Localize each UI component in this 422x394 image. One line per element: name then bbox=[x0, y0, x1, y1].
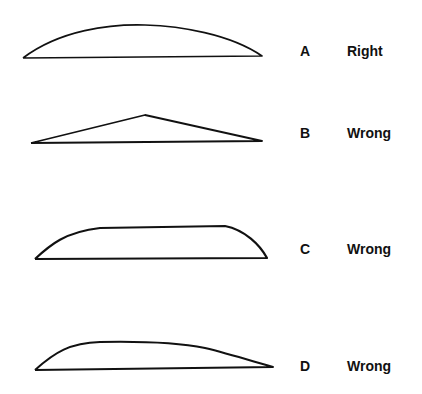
row-a-letter: A bbox=[300, 44, 310, 58]
row-d-verdict: Wrong bbox=[347, 359, 391, 373]
arc-diagram-canvas bbox=[0, 0, 422, 394]
row-c-letter: C bbox=[300, 242, 310, 256]
row-b-verdict: Wrong bbox=[347, 126, 391, 140]
row-a-verdict: Right bbox=[347, 44, 383, 58]
arc-shape-b bbox=[31, 115, 262, 143]
arc-shape-c bbox=[35, 226, 267, 259]
arc-shape-d bbox=[35, 342, 273, 370]
row-d-letter: D bbox=[300, 359, 310, 373]
row-c-verdict: Wrong bbox=[347, 242, 391, 256]
arc-shape-a bbox=[23, 25, 262, 58]
row-b-letter: B bbox=[300, 126, 310, 140]
